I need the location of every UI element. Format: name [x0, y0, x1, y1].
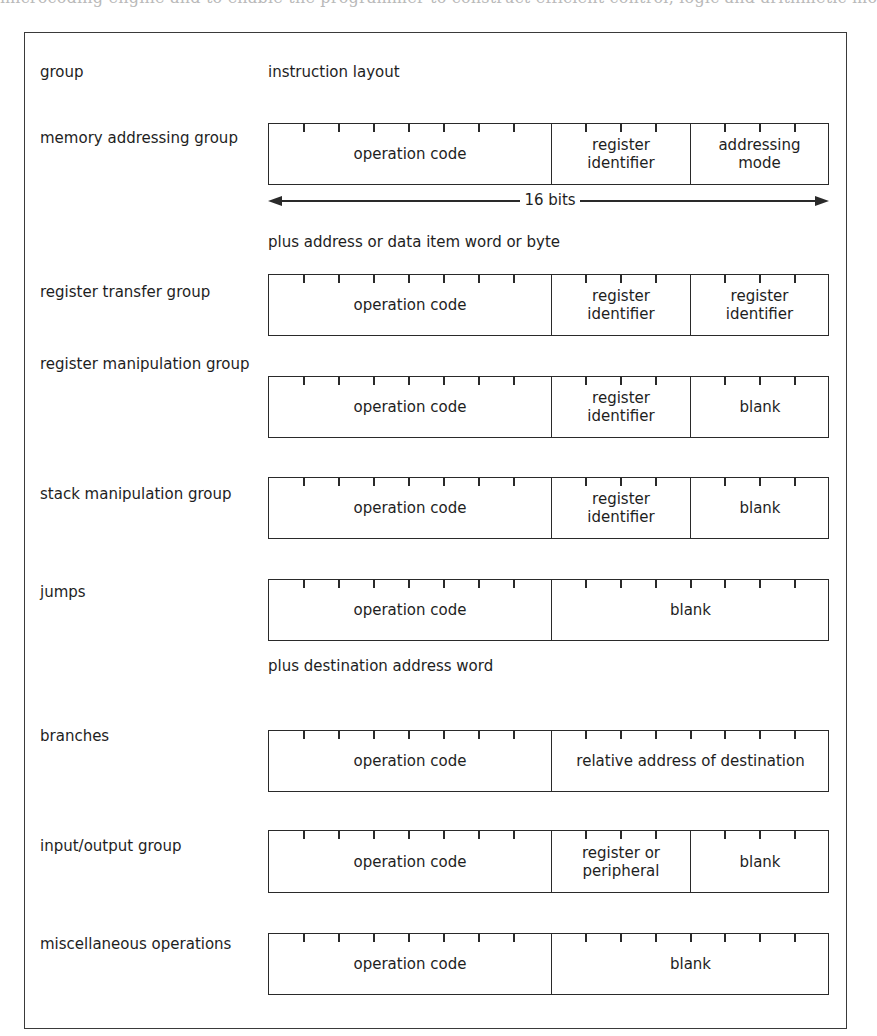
- bit-tick-mark: [759, 478, 761, 486]
- bit-tick-mark: [620, 731, 622, 739]
- bit-tick-mark: [408, 731, 410, 739]
- bit-tick-mark: [303, 124, 305, 132]
- bit-tick-mark: [373, 731, 375, 739]
- row-note: plus destination address word: [268, 656, 493, 676]
- field-register-identifier: register identifier: [551, 377, 690, 437]
- field-operation-code: operation code: [269, 831, 551, 892]
- bit-tick-mark: [408, 124, 410, 132]
- word-width-dimension: 16 bits: [268, 191, 829, 209]
- field-operation-code: operation code: [269, 731, 551, 791]
- field-register-or-peripheral: register or peripheral: [551, 831, 690, 892]
- field-operation-code: operation code: [269, 377, 551, 437]
- bit-tick-mark: [338, 580, 340, 588]
- field-register-identifier: register identifier: [551, 275, 690, 335]
- bit-tick-mark: [373, 124, 375, 132]
- bit-tick-mark: [620, 377, 622, 385]
- bit-tick-mark: [303, 831, 305, 839]
- bit-tick-mark: [408, 275, 410, 283]
- bit-tick-mark: [303, 934, 305, 942]
- bit-tick-mark: [794, 124, 796, 132]
- field-register-identifier: register identifier: [551, 478, 690, 538]
- bit-tick-mark: [690, 934, 692, 942]
- group-label: register transfer group: [40, 282, 210, 302]
- bit-tick-mark: [408, 580, 410, 588]
- bit-tick-mark: [585, 831, 587, 839]
- bit-tick-mark: [655, 124, 657, 132]
- bit-tick-mark: [478, 275, 480, 283]
- bit-tick-mark: [303, 275, 305, 283]
- bit-tick-mark: [724, 831, 726, 839]
- field-register-identifier: register identifier: [690, 275, 828, 335]
- field-blank: blank: [551, 580, 829, 640]
- instruction-word: operation code register or peripheral bl…: [268, 830, 829, 893]
- bit-tick-mark: [585, 478, 587, 486]
- bit-tick-mark: [478, 377, 480, 385]
- bit-tick-mark: [794, 831, 796, 839]
- group-label: register manipulation group: [40, 354, 250, 374]
- bit-tick-mark: [585, 377, 587, 385]
- bit-tick-mark: [759, 275, 761, 283]
- bit-tick-mark: [794, 377, 796, 385]
- arrow-right-icon: [815, 196, 829, 206]
- field-relative-address: relative address of destination: [551, 731, 829, 791]
- bit-tick-mark: [513, 478, 515, 486]
- field-operation-code: operation code: [269, 275, 551, 335]
- bit-tick-mark: [373, 831, 375, 839]
- field-operation-code: operation code: [269, 580, 551, 640]
- bit-tick-mark: [373, 934, 375, 942]
- field-operation-code: operation code: [269, 124, 551, 184]
- bit-tick-mark: [759, 934, 761, 942]
- group-label: miscellaneous operations: [40, 934, 231, 954]
- group-label: input/output group: [40, 836, 181, 856]
- field-blank: blank: [690, 831, 829, 892]
- bit-tick-mark: [338, 831, 340, 839]
- bit-tick-mark: [338, 731, 340, 739]
- bit-tick-mark: [478, 831, 480, 839]
- bit-tick-mark: [513, 275, 515, 283]
- bit-tick-mark: [759, 377, 761, 385]
- bit-tick-mark: [408, 377, 410, 385]
- bit-tick-mark: [759, 831, 761, 839]
- instruction-word: operation code blank: [268, 933, 829, 995]
- instruction-word: operation code register identifier blank: [268, 477, 829, 539]
- field-operation-code: operation code: [269, 478, 551, 538]
- bit-tick-mark: [478, 124, 480, 132]
- group-label: memory addressing group: [40, 128, 238, 148]
- word-width-label: 16 bits: [520, 191, 580, 209]
- bit-tick-mark: [303, 478, 305, 486]
- bit-tick-mark: [724, 934, 726, 942]
- bit-tick-mark: [373, 275, 375, 283]
- bit-tick-mark: [585, 124, 587, 132]
- bit-tick-mark: [513, 934, 515, 942]
- bit-tick-mark: [620, 275, 622, 283]
- bit-tick-mark: [759, 580, 761, 588]
- bit-tick-mark: [620, 478, 622, 486]
- bit-tick-mark: [303, 377, 305, 385]
- field-operation-code: operation code: [269, 934, 551, 994]
- bit-tick-mark: [303, 731, 305, 739]
- bit-tick-mark: [408, 831, 410, 839]
- bit-tick-mark: [724, 275, 726, 283]
- bit-tick-mark: [338, 934, 340, 942]
- bit-tick-mark: [443, 934, 445, 942]
- group-label: stack manipulation group: [40, 484, 232, 504]
- instruction-word: operation code blank: [268, 579, 829, 641]
- bit-tick-mark: [513, 831, 515, 839]
- bit-tick-mark: [655, 377, 657, 385]
- bit-tick-mark: [585, 934, 587, 942]
- bit-tick-mark: [724, 731, 726, 739]
- bit-tick-mark: [620, 831, 622, 839]
- field-blank: blank: [690, 377, 829, 437]
- row-note: plus address or data item word or byte: [268, 232, 560, 252]
- bit-tick-mark: [338, 478, 340, 486]
- bit-tick-mark: [513, 124, 515, 132]
- bit-tick-mark: [655, 478, 657, 486]
- bit-tick-mark: [690, 731, 692, 739]
- instruction-word: operation code register identifier regis…: [268, 274, 829, 336]
- bit-tick-mark: [620, 934, 622, 942]
- bit-tick-mark: [620, 124, 622, 132]
- bit-tick-mark: [338, 275, 340, 283]
- bit-tick-mark: [373, 580, 375, 588]
- bit-tick-mark: [759, 731, 761, 739]
- field-blank: blank: [551, 934, 829, 994]
